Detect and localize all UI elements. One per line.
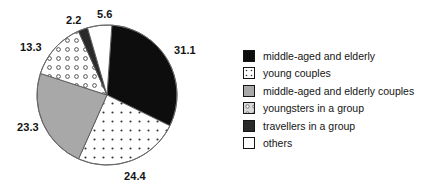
legend-item-young-couples: young couples [243, 65, 429, 83]
legend-item-middle-aged-and-elderly: middle-aged and elderly [243, 47, 429, 65]
slice-value-label-travellers-in-a-group: 2.2 [66, 14, 82, 26]
legend-swatch-solid-dark-gray [243, 120, 255, 132]
pie-slice-group [37, 25, 177, 165]
slice-value-label-youngsters-in-a-group: 13.3 [20, 41, 42, 53]
legend: middle-aged and elderly young couples mi… [243, 47, 429, 152]
slice-value-label-middle-aged-and-elderly: 31.1 [174, 44, 196, 56]
legend-item-label: travellers in a group [263, 120, 355, 132]
legend-swatch-fine-dots [243, 67, 255, 79]
pie-chart-figure: 31.1 24.4 23.3 13.3 2.2 5.6 middle-aged … [0, 0, 430, 193]
legend-item-middle-aged-and-elderly-couples: middle-aged and elderly couples [243, 82, 429, 100]
legend-swatch-solid-black [243, 50, 255, 62]
legend-item-travellers-in-a-group: travellers in a group [243, 117, 429, 135]
legend-swatch-solid-white [243, 137, 255, 149]
legend-swatch-open-circles [243, 102, 255, 114]
legend-swatch-solid-gray [243, 85, 255, 97]
slice-value-label-others: 5.6 [97, 8, 113, 20]
slice-value-label-middle-aged-and-elderly-couples: 23.3 [17, 121, 39, 133]
legend-item-label: youngsters in a group [263, 102, 364, 114]
legend-item-label: middle-aged and elderly [263, 50, 375, 62]
pie-chart-plot-area: 31.1 24.4 23.3 13.3 2.2 5.6 [0, 0, 232, 193]
legend-item-label: young couples [263, 67, 331, 79]
legend-item-others: others [243, 135, 429, 153]
legend-item-label: others [263, 137, 292, 149]
slice-value-label-young-couples: 24.4 [124, 170, 146, 182]
pie-chart-svg [0, 0, 232, 193]
legend-item-youngsters-in-a-group: youngsters in a group [243, 100, 429, 118]
legend-item-label: middle-aged and elderly couples [263, 85, 414, 97]
